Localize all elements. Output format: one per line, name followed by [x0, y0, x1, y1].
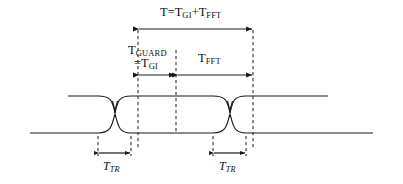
ofdm-timing-figure: T=TGI+TFFT TGUARD =TGI TFFT TTR TTR	[0, 0, 403, 184]
dimension-arrows	[99, 29, 252, 153]
label-fft-interval: TFFT	[198, 52, 221, 65]
label-total-symbol-time: T=TGI+TFFT	[160, 6, 222, 19]
label-transition-time-right: TTR	[219, 160, 236, 174]
dashed-guides	[98, 30, 253, 156]
label-guard-interval-alt: =TGI	[134, 57, 158, 70]
label-transition-time-left: TTR	[103, 160, 120, 174]
signal-waveform	[30, 96, 373, 133]
timing-diagram-canvas	[0, 0, 403, 184]
